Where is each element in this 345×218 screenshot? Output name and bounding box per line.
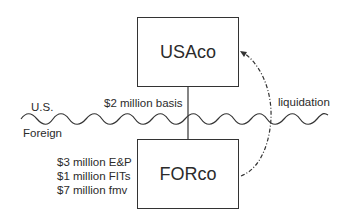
foreign-region-label: Foreign (23, 126, 62, 140)
usaco-entity-box: USAco (137, 17, 239, 87)
forco-label: FORco (159, 164, 216, 185)
basis-label: $2 million basis (104, 96, 183, 110)
forco-attribute-fmv: $7 million fmv (57, 183, 127, 197)
forco-entity-box: FORco (137, 139, 239, 209)
forco-attribute-ep: $3 million E&P (57, 155, 132, 169)
liquidation-label: liquidation (278, 95, 330, 109)
diagram-canvas: USAco FORco U.S. Foreign $2 million basi… (0, 0, 345, 218)
us-region-label: U.S. (31, 100, 53, 114)
arrowhead-icon (240, 51, 247, 57)
usaco-label: USAco (160, 42, 216, 63)
forco-attribute-fits: $1 million FITs (57, 169, 131, 183)
border-wave-line (21, 114, 328, 125)
